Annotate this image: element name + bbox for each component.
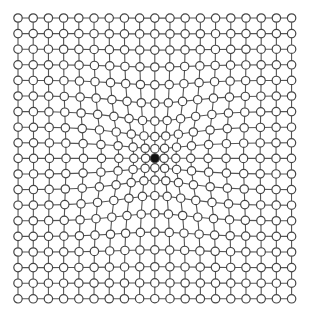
lattice-node <box>287 217 295 225</box>
lattice-node <box>257 92 265 100</box>
lattice-node <box>256 108 264 116</box>
lattice-node <box>75 232 83 240</box>
lattice-node <box>287 185 295 193</box>
lattice-node <box>287 248 295 256</box>
lattice-node <box>287 201 295 209</box>
lattice-node <box>257 45 265 53</box>
lattice-node <box>256 170 264 178</box>
lattice-node <box>165 228 173 236</box>
lattice-node <box>92 94 100 102</box>
lattice-node <box>29 295 37 303</box>
lattice-node <box>61 185 69 193</box>
lattice-node <box>14 45 22 53</box>
lattice-node <box>135 30 143 38</box>
lattice-node <box>141 154 149 162</box>
lattice-node <box>181 279 189 287</box>
lattice-node <box>29 279 37 287</box>
lattice-node <box>136 46 144 54</box>
lattice-node <box>120 14 128 22</box>
lattice-node <box>121 79 129 87</box>
lattice-node <box>151 63 159 71</box>
lattice-node <box>272 295 280 303</box>
lattice-node <box>227 295 235 303</box>
lattice-node <box>196 45 204 53</box>
lattice-node <box>240 185 248 193</box>
lattice-node <box>93 198 101 206</box>
lattice-node <box>14 232 22 240</box>
lattice-node <box>242 295 250 303</box>
lattice-node <box>14 14 22 22</box>
lattice-node <box>60 92 68 100</box>
lattice-node <box>44 232 52 240</box>
lattice-node <box>191 112 199 120</box>
lattice-node <box>222 139 230 147</box>
lattice-node <box>204 168 212 176</box>
lattice-node <box>151 30 159 38</box>
lattice-node <box>75 263 83 271</box>
lattice-node <box>44 92 52 100</box>
lattice-node <box>151 209 159 217</box>
lattice-node <box>151 192 159 200</box>
lattice-node <box>97 168 105 176</box>
lattice-node <box>240 124 248 132</box>
lattice-node <box>62 154 70 162</box>
lattice-node <box>224 200 232 208</box>
lattice-node <box>151 46 159 54</box>
lattice-node <box>211 61 219 69</box>
lattice-node <box>257 216 265 224</box>
lattice-node <box>160 144 168 152</box>
lattice-node <box>125 194 133 202</box>
lattice-node <box>61 108 69 116</box>
lattice-node <box>29 14 37 22</box>
lattice-node <box>287 154 295 162</box>
lattice-node <box>174 178 182 186</box>
lattice-node <box>166 263 174 271</box>
lattice-node <box>195 230 203 238</box>
lattice-node <box>92 215 100 223</box>
lattice-node <box>287 107 295 115</box>
lattice-node <box>136 246 144 254</box>
lattice-node <box>106 78 114 86</box>
lattice-node <box>14 279 22 287</box>
lattice-node <box>176 114 184 122</box>
lattice-node <box>196 62 204 70</box>
lattice-node <box>75 14 83 22</box>
lattice-node <box>141 164 149 172</box>
lattice-node <box>210 231 218 239</box>
lattice-node <box>14 123 22 131</box>
lattice-node <box>164 210 172 218</box>
lattice-node <box>90 29 98 37</box>
lattice-node <box>114 142 122 150</box>
lattice-node <box>256 185 264 193</box>
lattice-node <box>240 169 248 177</box>
lattice-node <box>208 110 216 118</box>
lattice-node <box>210 78 218 86</box>
lattice-node <box>29 61 37 69</box>
lattice-node <box>287 14 295 22</box>
lattice-node <box>208 198 216 206</box>
lattice-node <box>241 200 249 208</box>
lattice-node <box>242 61 250 69</box>
lattice-node <box>257 61 265 69</box>
lattice-node <box>90 45 98 53</box>
lattice-node <box>242 263 250 271</box>
lattice-node <box>151 99 159 107</box>
lattice-node <box>14 76 22 84</box>
lattice-node <box>257 295 265 303</box>
lattice-node <box>29 201 37 209</box>
lattice-node <box>151 164 159 172</box>
lattice-node <box>241 232 249 240</box>
lattice-node <box>272 139 280 147</box>
lattice-node <box>91 231 99 239</box>
lattice-node <box>44 29 52 37</box>
lattice-node <box>75 77 83 85</box>
lattice-node <box>14 154 22 162</box>
lattice-node <box>272 170 280 178</box>
lattice-node <box>181 295 189 303</box>
lattice-node <box>241 92 249 100</box>
lattice-node <box>241 76 249 84</box>
lattice-node <box>79 139 87 147</box>
lattice-node <box>211 263 219 271</box>
lattice-node <box>136 63 144 71</box>
lattice-node <box>287 139 295 147</box>
